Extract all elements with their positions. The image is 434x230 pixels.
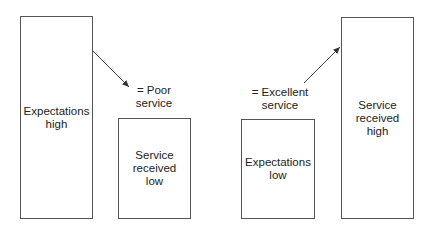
box-label-line: received [356, 112, 399, 125]
expectations-high-box: Expectations high [20, 16, 93, 219]
expectations-low-box: Expectations low [241, 119, 315, 219]
arrow-poor [92, 50, 129, 87]
box-label-line: Service [133, 149, 176, 162]
box-label-line: low [133, 175, 176, 188]
box-label-line: Expectations [24, 105, 90, 118]
excellent-service-label: = Excellent service [247, 86, 313, 112]
result-line: = Excellent [247, 86, 313, 99]
box-label-line: Expectations [245, 156, 311, 169]
result-line: service [247, 99, 313, 112]
poor-service-label: = Poor service [124, 84, 184, 110]
arrow-excellent [304, 47, 340, 83]
box-label-line: low [245, 169, 311, 182]
result-line: = Poor [124, 84, 184, 97]
result-line: service [124, 97, 184, 110]
box-label-line: received [133, 162, 176, 175]
service-received-high-box: Service received high [341, 17, 414, 219]
box-label-line: Service [356, 99, 399, 112]
box-label-line: high [356, 125, 399, 138]
box-label-line: high [24, 118, 90, 131]
service-received-low-box: Service received low [118, 118, 191, 219]
